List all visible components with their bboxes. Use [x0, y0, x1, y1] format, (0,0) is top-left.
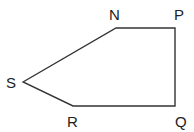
pentagon-shape — [23, 28, 175, 106]
vertex-label-n: N — [109, 6, 120, 23]
vertex-label-p: P — [174, 6, 184, 23]
vertex-label-s: S — [6, 74, 16, 91]
pentagon-diagram: N P Q R S — [0, 0, 194, 132]
vertex-label-r: R — [67, 113, 78, 130]
vertex-label-q: Q — [175, 113, 187, 130]
